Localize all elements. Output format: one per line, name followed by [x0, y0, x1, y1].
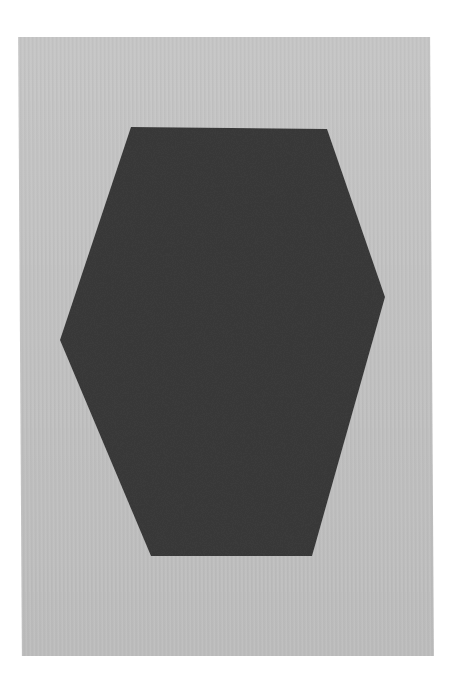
dark-hexagon: [0, 0, 454, 690]
